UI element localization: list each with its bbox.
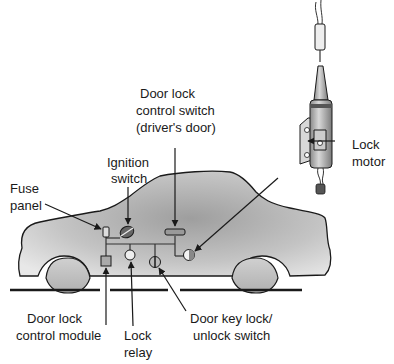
label-ignition-switch: Ignition switch	[107, 155, 153, 186]
label-fuse-panel: Fuse panel	[10, 181, 43, 213]
fuse-panel-icon	[103, 227, 109, 237]
label-door-lock-control-switch: Door lock control switch (driver's door)	[136, 86, 218, 135]
door-lock-diagram: Door lock control switch (driver's door)…	[0, 0, 394, 364]
lock-motor-door-icon	[184, 250, 195, 261]
label-lock-motor: Lock motor	[352, 137, 386, 169]
lock-relay-icon	[125, 250, 135, 260]
lock-motor-illustration	[300, 0, 332, 194]
door-lock-control-module-icon	[101, 256, 111, 266]
label-lock-relay: Lock relay	[124, 328, 155, 360]
label-door-lock-control-module: Door lock control module	[16, 311, 101, 343]
door-key-lock-unlock-switch-icon	[150, 257, 161, 268]
label-door-key-lock-unlock-switch: Door key lock/ unlock switch	[190, 311, 276, 343]
door-lock-control-switch-icon	[165, 229, 185, 235]
rear-wheel	[232, 258, 278, 293]
